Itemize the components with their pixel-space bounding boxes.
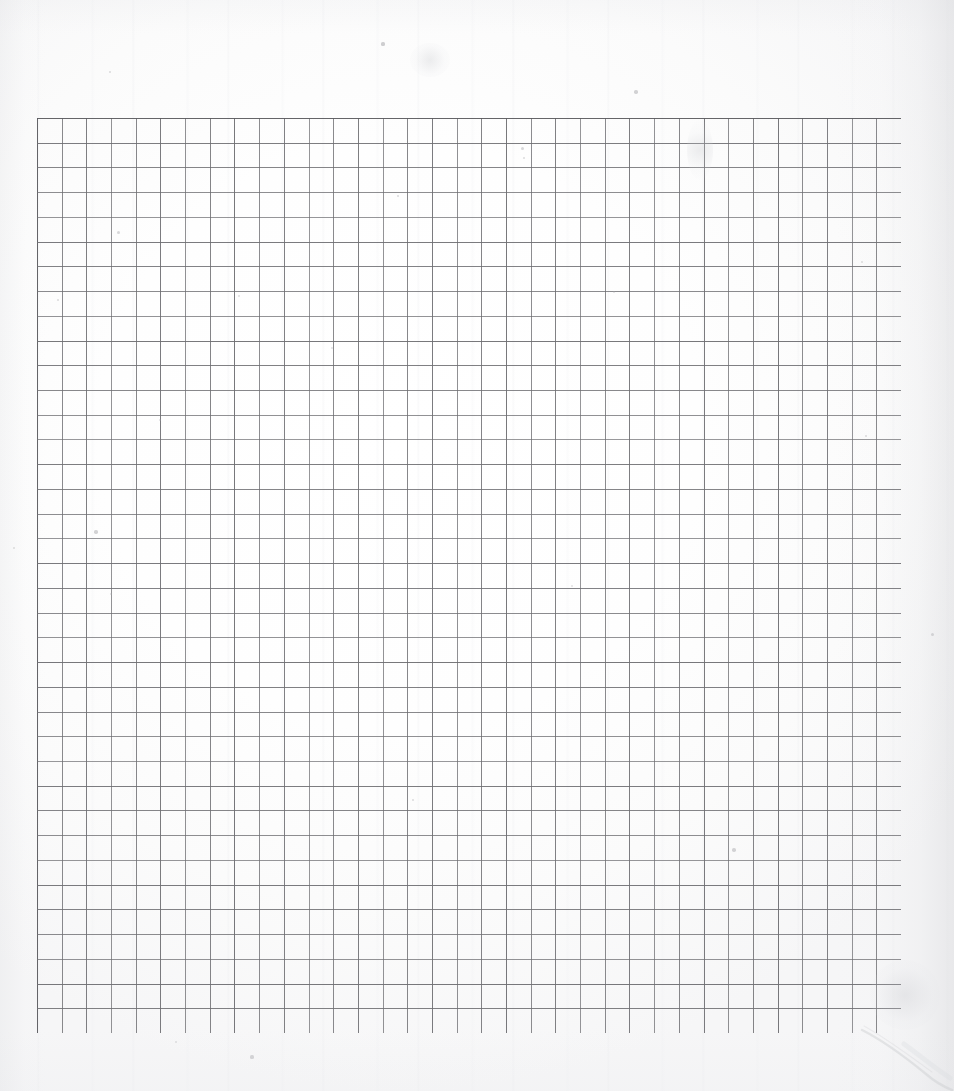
graph-paper-grid [37,118,901,1033]
paper-edge-shadow-top [0,0,954,34]
scanned-page [0,0,954,1091]
paper-edge-shadow-bottom [0,1031,954,1091]
